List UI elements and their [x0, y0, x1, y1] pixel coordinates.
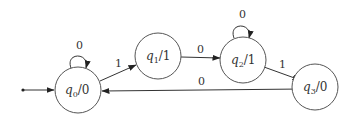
- edge-label-q3-q0: 0: [198, 75, 205, 88]
- state-q2: q2/1: [220, 37, 266, 83]
- svg-text:q1/1: q1/1: [146, 49, 170, 65]
- svg-text:q3/0: q3/0: [303, 80, 327, 96]
- edge-label-q2-q2: 0: [239, 8, 246, 21]
- edge-label-q2-q3: 1: [279, 58, 286, 71]
- state-q0: q0/0: [55, 67, 101, 113]
- svg-text:q2/1: q2/1: [231, 53, 255, 69]
- svg-text:q0/0: q0/0: [65, 83, 89, 99]
- edge-label-q1-q2: 0: [197, 43, 204, 56]
- state-diagram: 0 1 0 0 1 0 q0/0 q1/1 q2/1 q3/0: [0, 0, 362, 122]
- edge-label-q0-q0: 0: [76, 39, 83, 52]
- edge-q2-q2: [233, 26, 249, 38]
- edge-q1-q2: [181, 57, 220, 58]
- edge-label-q0-q1: 1: [115, 57, 122, 70]
- state-q1: q1/1: [135, 33, 181, 79]
- state-q3: q3/0: [292, 64, 338, 110]
- edge-q0-q0: [70, 56, 86, 68]
- edge-q3-q0: [102, 89, 302, 91]
